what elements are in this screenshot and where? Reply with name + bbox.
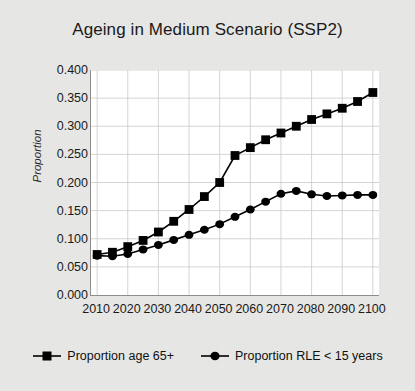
data-point-marker <box>307 115 316 124</box>
data-point-marker <box>261 135 270 144</box>
y-axis-tick-label: 0.150 <box>40 204 88 218</box>
data-point-marker <box>292 187 301 195</box>
y-axis-tick-label: 0.100 <box>40 232 88 246</box>
legend-circle-marker-icon <box>200 349 230 363</box>
data-point-marker <box>215 220 224 228</box>
data-point-marker <box>277 129 286 138</box>
x-axis-tick-label: 2030 <box>143 302 171 316</box>
chart-legend: Proportion age 65+Proportion RLE < 15 ye… <box>0 349 415 363</box>
data-point-marker <box>307 190 316 198</box>
y-axis-tick-labels: 0.4000.3500.3000.2500.2000.1500.1000.050… <box>36 0 88 391</box>
legend-item-1[interactable]: Proportion age 65+ <box>32 349 174 363</box>
data-point-marker <box>292 122 301 131</box>
series-2 <box>93 187 378 260</box>
series-1 <box>93 88 378 259</box>
x-axis-tick-label: 2060 <box>235 302 263 316</box>
data-point-marker <box>123 242 132 251</box>
data-point-marker <box>231 213 240 221</box>
data-point-marker <box>338 191 347 199</box>
series-line <box>97 191 373 256</box>
data-point-marker <box>338 104 347 113</box>
data-point-marker <box>185 231 194 239</box>
data-point-marker <box>323 192 332 200</box>
data-point-marker <box>353 97 362 106</box>
plot-area <box>90 70 379 296</box>
data-point-marker <box>215 178 224 187</box>
data-point-marker <box>231 151 240 160</box>
x-axis-tick-label: 2040 <box>174 302 202 316</box>
data-point-marker <box>261 198 270 206</box>
data-point-marker <box>368 191 377 199</box>
y-axis-tick-label: 0.250 <box>40 147 88 161</box>
y-axis-tick-label: 0.400 <box>40 63 88 77</box>
data-point-marker <box>323 109 332 118</box>
data-point-marker <box>200 192 209 201</box>
data-point-marker <box>108 252 117 260</box>
data-point-marker <box>93 252 102 260</box>
data-point-marker <box>139 236 148 245</box>
y-axis-tick-label: 0.350 <box>40 91 88 105</box>
series-line <box>97 93 373 255</box>
data-point-marker <box>277 190 286 198</box>
x-axis-tick-label: 2100 <box>358 302 386 316</box>
y-axis-tick-label: 0.200 <box>40 176 88 190</box>
data-point-marker <box>185 205 194 214</box>
data-point-marker <box>246 143 255 152</box>
x-axis-tick-label: 2050 <box>205 302 233 316</box>
data-point-marker <box>353 191 362 199</box>
data-point-marker <box>169 236 178 244</box>
x-axis-tick-label: 2020 <box>113 302 141 316</box>
y-axis-tick-label: 0.050 <box>40 260 88 274</box>
x-axis-tick-labels: 2010202020302040205020602070208020902100 <box>0 302 415 322</box>
data-point-marker <box>123 250 132 258</box>
data-point-marker <box>169 217 178 226</box>
data-point-marker <box>139 245 148 253</box>
data-point-marker <box>200 226 209 234</box>
legend-label: Proportion age 65+ <box>67 349 174 363</box>
chart-figure: Ageing in Medium Scenario (SSP2) Proport… <box>0 0 415 391</box>
data-point-marker <box>368 88 377 97</box>
plot-canvas <box>91 70 379 295</box>
data-point-marker <box>154 228 163 237</box>
data-point-marker <box>246 206 255 214</box>
y-axis-tick-label: 0.000 <box>40 288 88 302</box>
legend-label: Proportion RLE < 15 years <box>235 349 383 363</box>
x-axis-tick-label: 2010 <box>82 302 110 316</box>
y-axis-tick-label: 0.300 <box>40 119 88 133</box>
x-axis-tick-label: 2080 <box>297 302 325 316</box>
data-point-marker <box>154 241 163 249</box>
legend-item-2[interactable]: Proportion RLE < 15 years <box>200 349 383 363</box>
x-axis-tick-label: 2070 <box>266 302 294 316</box>
legend-square-marker-icon <box>32 349 62 363</box>
x-axis-tick-label: 2090 <box>327 302 355 316</box>
